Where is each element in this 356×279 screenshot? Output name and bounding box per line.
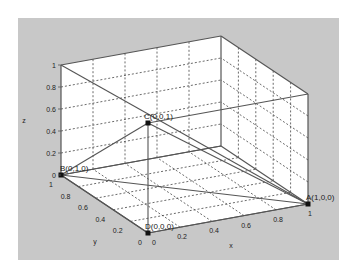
z-tick-label: 0.6 xyxy=(46,106,56,113)
plot-figure: A(1,0,0)B(0,1,0)C(0,0,1)D(0,0,0)00.20.40… xyxy=(0,0,356,279)
y-tick-label: 1 xyxy=(49,181,53,188)
point-marker xyxy=(146,121,151,126)
z-tick-label: 1 xyxy=(52,62,56,69)
point-marker xyxy=(146,231,151,236)
z-axis-label: z xyxy=(22,117,26,124)
z-tick-label: 0 xyxy=(52,172,56,179)
point-label: A(1,0,0) xyxy=(306,193,335,202)
z-tick-label: 0.4 xyxy=(46,128,56,135)
x-tick-label: 0.8 xyxy=(273,216,283,223)
x-tick-label: 0 xyxy=(152,239,156,246)
x-tick-label: 1 xyxy=(308,210,312,217)
x-axis-label: x xyxy=(229,242,233,249)
y-tick-label: 0.8 xyxy=(61,193,71,200)
point-marker xyxy=(306,202,311,207)
point-label: B(0,1,0) xyxy=(60,164,89,173)
point-label: D(0,0,0) xyxy=(145,222,174,231)
x-tick-label: 0.6 xyxy=(241,222,251,229)
z-tick-label: 0.2 xyxy=(46,150,56,157)
y-tick-label: 0 xyxy=(138,239,142,246)
y-tick-label: 0.2 xyxy=(113,227,123,234)
y-tick-label: 0.6 xyxy=(78,204,88,211)
x-tick-label: 0.2 xyxy=(177,233,187,240)
y-axis-label: y xyxy=(93,238,97,246)
y-tick-label: 0.4 xyxy=(95,216,105,223)
z-tick-label: 0.8 xyxy=(46,84,56,91)
x-tick-label: 0.4 xyxy=(209,227,219,234)
point-label: C(0,0,1) xyxy=(144,112,173,121)
